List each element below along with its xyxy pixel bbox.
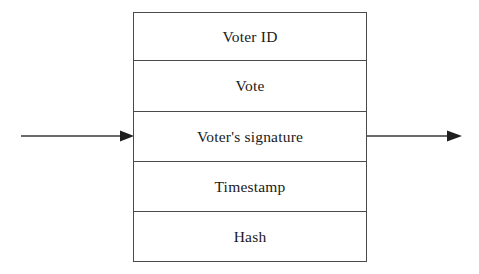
block-field-signature: Voter's signature	[134, 112, 366, 162]
block-field-label: Voter ID	[222, 29, 277, 45]
block-field-vote: Vote	[134, 61, 366, 112]
vote-block: Voter ID Vote Voter's signature Timestam…	[133, 12, 367, 262]
block-field-hash: Hash	[134, 212, 366, 261]
output-arrow	[367, 128, 462, 144]
block-field-timestamp: Timestamp	[134, 162, 366, 212]
block-field-label: Vote	[236, 78, 265, 94]
block-field-label: Timestamp	[215, 179, 286, 195]
diagram-canvas: Voter ID Vote Voter's signature Timestam…	[0, 0, 479, 274]
input-arrow	[21, 128, 134, 144]
block-field-label: Hash	[234, 229, 267, 245]
block-field-voter-id: Voter ID	[134, 13, 366, 61]
block-field-label: Voter's signature	[197, 129, 303, 145]
